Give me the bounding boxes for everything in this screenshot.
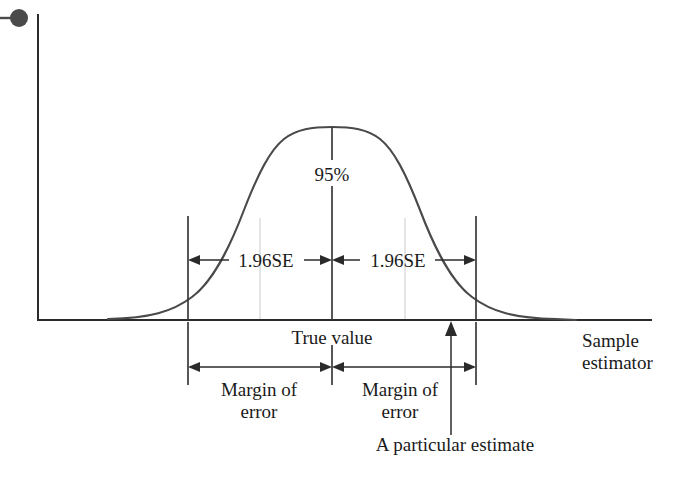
margin-of-error-left-label-line2: error	[241, 401, 279, 422]
particular-estimate-label: A particular estimate	[376, 434, 534, 455]
confidence-level-label: 95%	[315, 164, 350, 185]
margin-of-error-left-label-line1: Margin of	[221, 379, 298, 400]
particular-estimate-pointer	[445, 321, 457, 435]
margin-of-error-right-label-line2: error	[382, 401, 420, 422]
true-value-label: True value	[291, 327, 372, 348]
scan-artifact-blob	[0, 9, 28, 27]
se-left-label: 1.96SE	[238, 250, 293, 271]
confidence-interval-figure: 95% 1.96SE 1.96SE True value	[0, 0, 699, 483]
se-right-label: 1.96SE	[370, 250, 425, 271]
x-axis-label-line2: estimator	[582, 352, 653, 373]
margin-left-arrow-group	[188, 362, 332, 372]
figure-canvas: 95% 1.96SE 1.96SE True value	[0, 0, 699, 483]
x-axis-label-line1: Sample	[582, 330, 639, 351]
margin-of-error-right-label-line1: Margin of	[362, 379, 439, 400]
margin-right-arrow-group	[332, 362, 476, 372]
normal-distribution-curve	[108, 127, 576, 320]
